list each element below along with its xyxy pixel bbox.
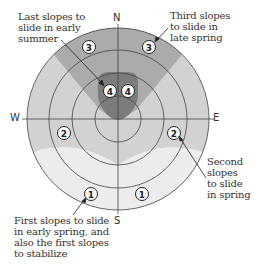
- west-label: W: [10, 112, 20, 123]
- annotation-zone-4: Last slopes to slide in early summer: [18, 11, 85, 44]
- arrow-to-zone-3: [157, 28, 168, 40]
- marker-1-left: 1: [85, 188, 98, 201]
- marker-3-right: 3: [143, 41, 156, 54]
- marker-2-left: 2: [58, 127, 71, 140]
- annotation-zone-2: Second slopes to slide in spring: [207, 156, 250, 200]
- svg-text:4: 4: [107, 87, 113, 97]
- svg-text:3: 3: [86, 43, 92, 53]
- svg-text:1: 1: [88, 190, 94, 200]
- marker-4-left: 4: [104, 85, 117, 98]
- svg-text:4: 4: [125, 87, 131, 97]
- marker-1-right: 1: [136, 188, 149, 201]
- north-label: N: [113, 12, 120, 23]
- marker-4-right: 4: [122, 85, 135, 98]
- south-label: S: [114, 215, 120, 226]
- svg-text:2: 2: [171, 129, 177, 139]
- east-label: E: [213, 112, 219, 123]
- svg-text:3: 3: [146, 43, 152, 53]
- annotation-zone-1: First slopes to slide in early spring, a…: [14, 215, 109, 259]
- svg-text:2: 2: [61, 129, 67, 139]
- annotation-zone-3: Third slopes to slide in late spring: [170, 10, 230, 43]
- svg-text:1: 1: [139, 190, 145, 200]
- marker-2-right: 2: [168, 127, 181, 140]
